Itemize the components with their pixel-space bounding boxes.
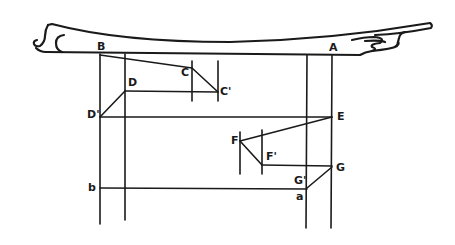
label-a-lower: a (296, 191, 303, 202)
label-d: D (128, 77, 137, 88)
roof-beam (34, 23, 432, 55)
label-c-prime: C' (220, 86, 231, 97)
line-b-a (100, 188, 307, 189)
line-d-c-prime (125, 91, 218, 92)
label-b-lower: b (88, 182, 96, 193)
vertical-line-a-prime (306, 55, 307, 228)
line-d-prime-d (100, 91, 125, 117)
label-b: B (97, 41, 105, 52)
label-c: C (181, 67, 189, 78)
vertical-line-a (331, 55, 332, 228)
label-f-prime: F' (266, 151, 277, 162)
line-c-c-prime (192, 68, 218, 92)
label-g-prime: G' (294, 175, 306, 186)
line-e-f (240, 117, 332, 141)
label-g: G (336, 162, 345, 173)
label-a: A (329, 42, 338, 53)
label-f: F (231, 135, 239, 146)
line-f-prime-g (262, 165, 332, 166)
line-b-c (100, 55, 192, 68)
label-d-prime: D' (87, 109, 100, 120)
line-g-a (307, 167, 332, 188)
line-f-f-prime (240, 141, 262, 165)
label-e: E (337, 111, 345, 122)
roof-beam-diagram (0, 0, 455, 245)
